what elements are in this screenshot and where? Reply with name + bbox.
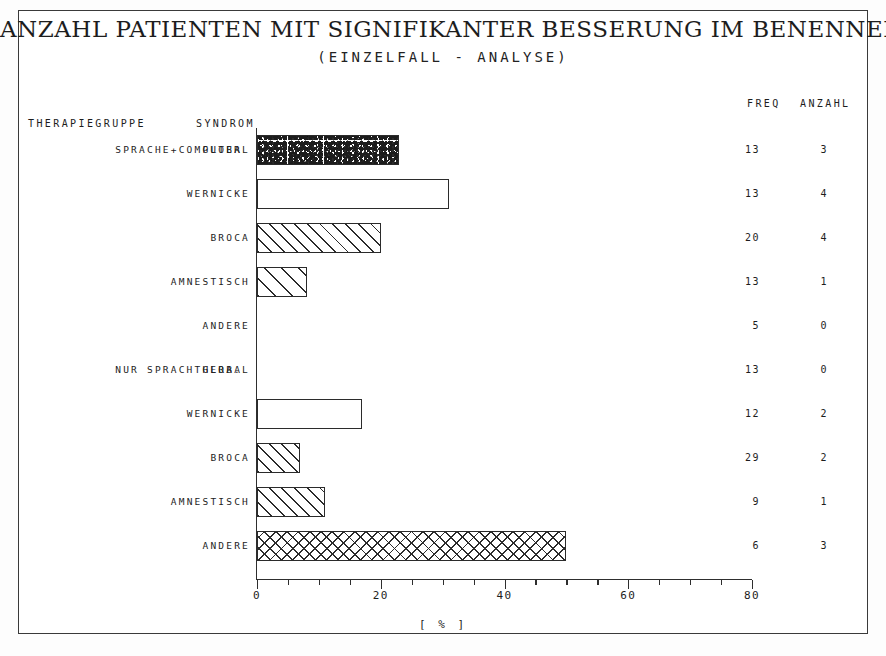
x-tick-20 [381, 580, 382, 589]
freq-value: 13 [700, 128, 760, 172]
x-tick-label-60: 60 [620, 589, 636, 602]
bar-global [257, 135, 399, 165]
x-tick-60 [628, 580, 629, 589]
x-tick-label-0: 0 [253, 589, 261, 602]
x-tick-label-20: 20 [373, 589, 389, 602]
chart-title: ANZAHL PATIENTEN MIT SIGNIFIKANTER BESSE… [0, 16, 886, 42]
chart-row: WERNICKE134 [0, 172, 886, 216]
bar-broca [257, 223, 381, 253]
freq-value: 29 [700, 436, 760, 480]
chart-row: BROCA292 [0, 436, 886, 480]
anzahl-value: 4 [760, 172, 828, 216]
bar-amnestisch [257, 487, 325, 517]
x-tick-0 [257, 580, 258, 589]
x-tick-label-40: 40 [496, 589, 512, 602]
chart-row: BROCA204 [0, 216, 886, 260]
x-tick-50 [566, 580, 567, 585]
syndrome-label: ANDERE [0, 524, 250, 568]
freq-value: 12 [700, 392, 760, 436]
bar-andere [257, 531, 566, 561]
bar-broca [257, 443, 300, 473]
syndrome-label: GLOBAL [0, 348, 250, 392]
chart-row: AMNESTISCH91 [0, 480, 886, 524]
syndrome-label: BROCA [0, 216, 250, 260]
chart-row: WERNICKE122 [0, 392, 886, 436]
syndrome-label: ANDERE [0, 304, 250, 348]
x-tick-35 [474, 580, 475, 585]
x-tick-45 [535, 580, 536, 585]
x-tick-10 [319, 580, 320, 585]
syndrome-label: AMNESTISCH [0, 260, 250, 304]
anzahl-value: 3 [760, 524, 828, 568]
anzahl-value: 4 [760, 216, 828, 260]
chart-row: NUR SPRACHTHERA.GLOBAL130 [0, 348, 886, 392]
freq-value: 13 [700, 260, 760, 304]
syndrome-label: WERNICKE [0, 172, 250, 216]
freq-value: 9 [700, 480, 760, 524]
x-tick-15 [350, 580, 351, 585]
syndrome-label: WERNICKE [0, 392, 250, 436]
bar-amnestisch [257, 267, 307, 297]
column-header-anzahl: ANZAHL [800, 98, 851, 109]
chart-row: ANDERE63 [0, 524, 886, 568]
chart-subtitle: (EINZELFALL - ANALYSE) [0, 49, 886, 65]
anzahl-value: 3 [760, 128, 828, 172]
x-tick-25 [412, 580, 413, 585]
freq-value: 20 [700, 216, 760, 260]
x-tick-70 [690, 580, 691, 585]
x-tick-65 [659, 580, 660, 585]
bar-wernicke [257, 179, 449, 209]
x-tick-5 [288, 580, 289, 585]
freq-value: 13 [700, 348, 760, 392]
anzahl-value: 1 [760, 480, 828, 524]
chart-row: SPRACHE+COMPUTERGLOBAL133 [0, 128, 886, 172]
x-tick-55 [597, 580, 598, 585]
anzahl-value: 2 [760, 392, 828, 436]
chart-row: ANDERE50 [0, 304, 886, 348]
anzahl-value: 2 [760, 436, 828, 480]
x-axis-label: [ % ] [0, 618, 886, 631]
anzahl-value: 1 [760, 260, 828, 304]
chart-row: AMNESTISCH131 [0, 260, 886, 304]
syndrome-label: AMNESTISCH [0, 480, 250, 524]
anzahl-value: 0 [760, 348, 828, 392]
x-tick-75 [721, 580, 722, 585]
x-tick-40 [505, 580, 506, 589]
bar-wernicke [257, 399, 362, 429]
syndrome-label: BROCA [0, 436, 250, 480]
x-tick-30 [443, 580, 444, 585]
x-tick-label-80: 80 [744, 589, 760, 602]
freq-value: 6 [700, 524, 760, 568]
chart-page: ANZAHL PATIENTEN MIT SIGNIFIKANTER BESSE… [0, 0, 886, 656]
freq-value: 5 [700, 304, 760, 348]
anzahl-value: 0 [760, 304, 828, 348]
freq-value: 13 [700, 172, 760, 216]
column-header-freq: FREQ [747, 98, 781, 109]
x-tick-80 [752, 580, 753, 589]
syndrome-label: GLOBAL [0, 128, 250, 172]
